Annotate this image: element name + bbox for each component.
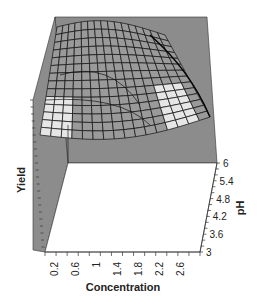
x-tick-label: 1.4 xyxy=(112,262,123,276)
ph-axis-title: pH xyxy=(234,201,246,216)
x-tick-label: 2.6 xyxy=(175,262,186,276)
floor xyxy=(45,163,217,252)
y-tick-label: 5.4 xyxy=(220,176,234,187)
y-tick-label: 3 xyxy=(206,247,212,258)
y-tick-label: 4.8 xyxy=(216,194,230,205)
x-tick-label: 1.8 xyxy=(133,262,144,276)
x-tick-label: 0.2 xyxy=(49,262,60,276)
y-tick-label: 6 xyxy=(223,158,229,169)
x-tick-label: 1 xyxy=(91,262,102,268)
concentration-axis-title: Concentration xyxy=(86,281,161,293)
concentration-axis: 0.20.611.41.82.22.6 xyxy=(45,252,200,276)
y-tick-label: 3.6 xyxy=(209,229,223,240)
surface-plot: 0.20.611.41.82.22.6 33.64.24.85.46 Yield… xyxy=(0,0,258,306)
x-tick-label: 2.2 xyxy=(154,262,165,276)
x-tick-label: 0.6 xyxy=(70,262,81,276)
y-tick-label: 4.2 xyxy=(213,211,227,222)
yield-axis-title: Yield xyxy=(15,167,27,193)
